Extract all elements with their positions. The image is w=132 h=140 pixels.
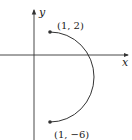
x-axis-label: x: [122, 56, 129, 69]
start-point-label: (1, 2): [57, 20, 84, 31]
curve-diagram: x y (1, 2) (1, −6): [0, 0, 132, 140]
y-axis-label: y: [38, 6, 46, 19]
start-point-marker: [48, 30, 52, 34]
end-point-marker: [48, 120, 52, 124]
end-point-label: (1, −6): [54, 129, 89, 140]
semicircle-curve: [50, 32, 94, 122]
